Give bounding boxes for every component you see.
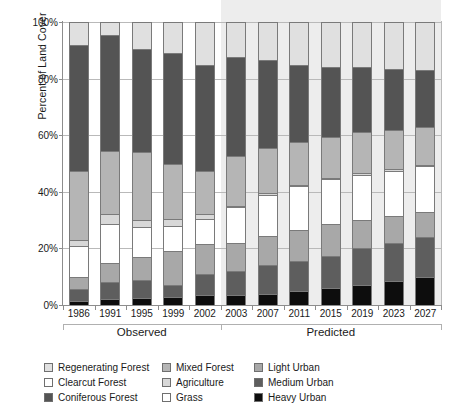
bar-segment	[227, 207, 245, 242]
x-tick-label-2007: 2007	[252, 308, 284, 319]
x-tick-mark	[63, 306, 64, 310]
bar-segment	[164, 219, 182, 226]
x-tick-label-1995: 1995	[126, 308, 158, 319]
bar-segment	[416, 237, 434, 277]
bar-segment	[322, 22, 340, 67]
x-axis-labels: 1986199119951999200220032007201120152019…	[63, 306, 441, 326]
stacked-bar-1986[interactable]	[69, 22, 89, 305]
x-tick-label-2015: 2015	[315, 308, 347, 319]
bar-segment	[385, 216, 403, 243]
legend-swatch-clearcut-forest	[44, 378, 53, 387]
bar-segment	[290, 261, 308, 291]
bar-segment	[164, 297, 182, 305]
bar-segment	[353, 248, 371, 285]
bar-segment	[101, 151, 119, 215]
legend-item-light-urban[interactable]: Light Urban	[254, 360, 374, 375]
x-tick-mark	[315, 306, 316, 310]
legend-swatch-regenerating-forest	[44, 363, 53, 372]
bar-segment	[416, 212, 434, 237]
bar-segment	[385, 22, 403, 69]
bar-segment	[259, 265, 277, 293]
bar-segment	[70, 246, 88, 277]
stacked-bar-2019[interactable]	[352, 22, 372, 305]
bar-segment	[416, 277, 434, 305]
bar-segment	[196, 274, 214, 295]
legend-swatch-coniferous-forest	[44, 393, 53, 402]
bar-segment	[133, 152, 151, 220]
bar-segment	[196, 244, 214, 274]
y-tick-label: 100%	[0, 17, 63, 28]
group-label-predicted: Predicted	[221, 326, 442, 338]
stacked-bar-2003[interactable]	[226, 22, 246, 305]
bar-segment	[196, 22, 214, 64]
stacked-bar-2023[interactable]	[384, 22, 404, 305]
legend-label: Medium Urban	[268, 378, 334, 388]
bar-segment	[164, 226, 182, 251]
bar-segment	[227, 22, 245, 57]
x-tick-mark	[221, 306, 222, 310]
bar-segment	[322, 67, 340, 136]
bar-segment	[70, 289, 88, 300]
stacked-bar-2015[interactable]	[321, 22, 341, 305]
bar-segment	[70, 45, 88, 171]
bar-segment	[196, 219, 214, 244]
bar-segment	[416, 127, 434, 165]
stacked-bar-1991[interactable]	[100, 22, 120, 305]
legend-label: Regenerating Forest	[58, 363, 149, 373]
bar-segment	[353, 175, 371, 220]
stacked-bar-1999[interactable]	[163, 22, 183, 305]
bar-segment	[133, 298, 151, 305]
legend-item-medium-urban[interactable]: Medium Urban	[254, 375, 374, 390]
group-tick	[221, 324, 222, 330]
legend-item-agriculture[interactable]: Agriculture	[162, 375, 244, 390]
group-separator-line	[63, 324, 442, 325]
bar-slot	[158, 22, 190, 305]
stacked-bar-2011[interactable]	[289, 22, 309, 305]
bar-slot	[347, 22, 379, 305]
legend-label: Grass	[176, 393, 203, 403]
bar-segment	[227, 156, 245, 206]
bar-segment	[290, 142, 308, 184]
y-tick-label: 20%	[0, 243, 63, 254]
stacked-bar-2027[interactable]	[415, 22, 435, 305]
legend-label: Coniferous Forest	[58, 393, 137, 403]
bar-segment	[259, 236, 277, 266]
x-tick-mark	[252, 306, 253, 310]
x-tick-mark	[378, 306, 379, 310]
legend-item-regenerating-forest[interactable]: Regenerating Forest	[44, 360, 152, 375]
legend-item-heavy-urban[interactable]: Heavy Urban	[254, 390, 374, 405]
legend-label: Light Urban	[268, 363, 320, 373]
bar-slot	[189, 22, 221, 305]
x-tick-mark	[347, 306, 348, 310]
legend-label: Clearcut Forest	[58, 378, 126, 388]
bar-segment	[385, 171, 403, 216]
x-tick-mark	[158, 306, 159, 310]
legend-item-mixed-forest[interactable]: Mixed Forest	[162, 360, 244, 375]
legend-item-grass[interactable]: Grass	[162, 390, 244, 405]
bar-segment	[259, 195, 277, 236]
bar-segment	[133, 227, 151, 257]
x-tick-label-1991: 1991	[95, 308, 127, 319]
bar-slot	[315, 22, 347, 305]
bar-segment	[101, 263, 119, 283]
stacked-bar-1995[interactable]	[132, 22, 152, 305]
bar-segment	[70, 22, 88, 45]
bar-segment	[70, 277, 88, 290]
y-tick-label: 40%	[0, 186, 63, 197]
bar-segment	[196, 295, 214, 305]
bar-segment	[290, 65, 308, 143]
legend-swatch-grass	[162, 393, 171, 402]
bar-slot	[284, 22, 316, 305]
legend-item-clearcut-forest[interactable]: Clearcut Forest	[44, 375, 152, 390]
stacked-bar-2002[interactable]	[195, 22, 215, 305]
bar-slot	[63, 22, 95, 305]
legend-label: Mixed Forest	[176, 363, 234, 373]
bar-segment	[353, 220, 371, 248]
legend-item-coniferous-forest[interactable]: Coniferous Forest	[44, 390, 152, 405]
stacked-bar-2007[interactable]	[258, 22, 278, 305]
bar-segment	[133, 49, 151, 152]
x-tick-mark	[410, 306, 411, 310]
land-cover-stacked-bar-chart: Percent of Land Cover 0%20%40%60%80%100%…	[0, 0, 451, 413]
bar-segment	[133, 220, 151, 227]
bar-segment	[133, 257, 151, 280]
